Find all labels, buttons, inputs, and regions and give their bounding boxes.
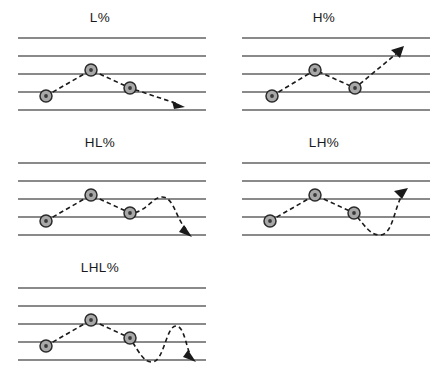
panel-hl: HL%: [0, 125, 224, 250]
swing-markers-lh: [264, 189, 360, 227]
panel-chart-h: [224, 0, 448, 125]
price-path-l: [46, 70, 178, 104]
arrowhead-l: [172, 101, 185, 109]
panel-lh: LH%: [224, 125, 448, 250]
swing-pattern-figure: L% H%: [0, 0, 448, 375]
panel-h: H%: [224, 0, 448, 125]
swing-markers-h: [266, 64, 361, 102]
swing-markers-hl: [40, 189, 136, 227]
price-path-lh: [270, 195, 401, 235]
panel-chart-lhl: [0, 250, 224, 375]
price-path-hl: [46, 195, 186, 229]
price-path-h: [272, 54, 396, 96]
arrowhead-lh: [394, 188, 408, 199]
price-path-lhl: [46, 320, 190, 362]
swing-markers-l: [40, 64, 136, 102]
panel-chart-lh: [224, 125, 448, 250]
panel-chart-l: [0, 0, 224, 125]
panel-chart-hl: [0, 125, 224, 250]
panel-lhl: LHL%: [0, 250, 224, 375]
swing-markers-lhl: [40, 314, 136, 352]
panel-l: L%: [0, 0, 224, 125]
